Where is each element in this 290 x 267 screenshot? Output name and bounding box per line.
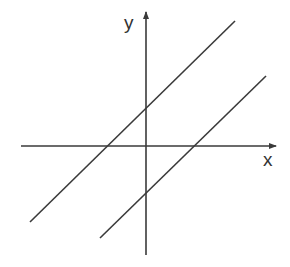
x-axis-label: x xyxy=(263,149,273,170)
coordinate-plane: y x xyxy=(0,0,290,267)
y-axis-label: y xyxy=(124,12,134,33)
lower-line xyxy=(100,76,266,238)
upper-line xyxy=(30,21,235,222)
diagram-canvas: y x xyxy=(0,0,290,267)
